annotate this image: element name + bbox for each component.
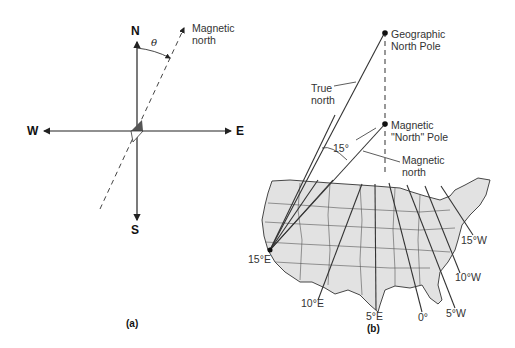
south-label: S (131, 223, 139, 237)
magnetic-pole-label: Magnetic "North" Pole (391, 119, 448, 143)
magnetic-north-label-b: Magnetic north (402, 154, 445, 178)
isogonic-label-5w: 5°W (446, 307, 466, 319)
angle-15-label: 15° (333, 142, 349, 154)
isogonic-label-15e: 15°E (248, 253, 271, 265)
isogonic-label-10e: 10°E (301, 297, 324, 309)
magnetic-north-label-a: Magnetic north (192, 22, 235, 46)
isogonic-label-10w: 10°W (455, 271, 481, 283)
true-north-label: True north (311, 82, 335, 106)
north-label: N (131, 24, 140, 38)
geographic-pole-label: Geographic North Pole (391, 28, 445, 52)
isogonic-label-15w: 15°W (461, 234, 487, 246)
west-label: W (27, 124, 38, 138)
theta-label: θ (151, 37, 157, 48)
isogonic-label-5e: 5°E (366, 310, 383, 322)
caption-a: (a) (126, 318, 138, 329)
east-label: E (236, 124, 244, 138)
isogonic-label-0: 0° (418, 311, 428, 323)
compass (44, 28, 231, 220)
caption-b: (b) (367, 323, 380, 334)
